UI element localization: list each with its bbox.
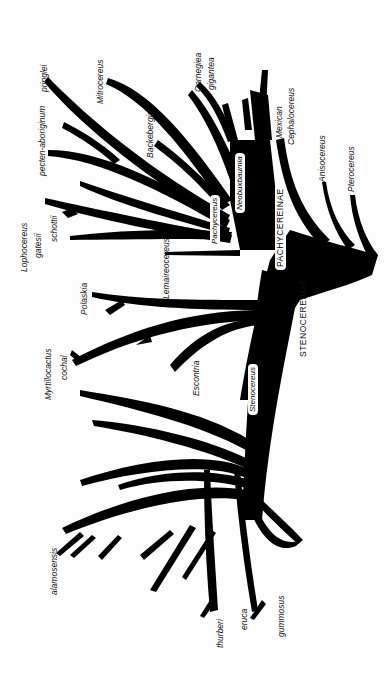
label-pachycereinae: PACHYCEREINAE (275, 185, 286, 270)
label-backebergia: Backebergia (146, 111, 155, 158)
label-neobuxbaumia: Neobuxbaumia (235, 153, 245, 213)
label-escontria: Escontria (192, 361, 201, 396)
label-myrtillocactus: Myrtillocactus (44, 349, 53, 400)
label-eruca: eruca (240, 609, 249, 630)
label-pachycereus: Pachycereus (210, 195, 220, 247)
label-gummosus: gummosus (277, 595, 286, 637)
label-mexican: Mexican (275, 106, 284, 138)
label-stenocereus: Stenocereus (248, 364, 258, 415)
label-mitrocereus: Mitrocereus (96, 60, 105, 104)
label-cephalocereus: Cephalocereus (287, 88, 296, 145)
label-thurberi: thurberi (216, 619, 225, 648)
phylogeny-figure: Lophocereus gatesii schottii pecten-abor… (0, 0, 386, 691)
label-carnegiea: Carnegiea (194, 53, 203, 92)
label-gigantea: gigantea (207, 57, 216, 90)
label-schottii: schottii (50, 216, 59, 242)
label-anisocereus: Anisocereus (318, 135, 327, 182)
label-pringlei: pringlei (40, 65, 49, 92)
label-gatesii: gatesii (34, 233, 43, 258)
label-pterocereus: Pterocereus (347, 146, 356, 192)
label-alamosensis: alamosensis (50, 548, 59, 595)
label-stenocereinae: STENOCEREINAE (299, 278, 308, 357)
label-cochal: cochal (60, 355, 69, 380)
label-lophocereus: Lophocereus (20, 223, 29, 272)
label-polaskia: Polaskia (80, 283, 89, 315)
label-pecten-aboriginum: pecten-aboriginum (38, 106, 47, 176)
label-lemaireocereus: Lemaireocereus (162, 238, 171, 299)
